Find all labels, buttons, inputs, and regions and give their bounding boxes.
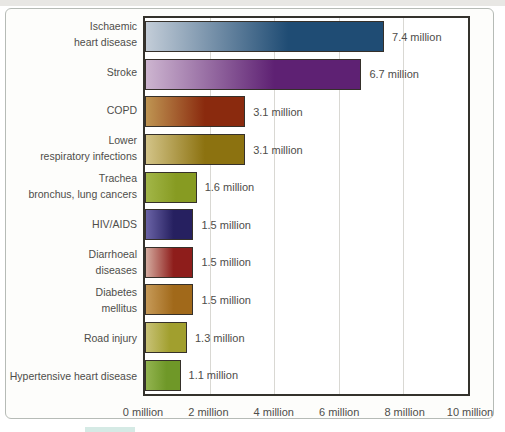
- category-label-row: Lower respiratory infections: [6, 130, 137, 168]
- category-label: Road injury: [84, 331, 137, 347]
- chart-row: 1.1 million: [145, 356, 468, 394]
- bar-rows: 7.4 million6.7 million3.1 million3.1 mil…: [145, 18, 468, 394]
- chart-row: 6.7 million: [145, 56, 468, 94]
- bar: [145, 59, 361, 90]
- category-label-row: COPD: [6, 92, 137, 130]
- value-label: 1.5 million: [201, 294, 251, 306]
- value-label: 3.1 million: [253, 144, 303, 156]
- value-label: 7.4 million: [392, 31, 442, 43]
- screenshot-canvas: Ischaemic heart diseaseStrokeCOPDLower r…: [0, 0, 505, 432]
- chart-row: 1.3 million: [145, 319, 468, 357]
- bar: [145, 172, 197, 203]
- bar: [145, 96, 245, 127]
- value-label: 1.6 million: [205, 181, 255, 193]
- value-label: 1.5 million: [201, 256, 251, 268]
- plot-area: 7.4 million6.7 million3.1 million3.1 mil…: [143, 16, 470, 396]
- x-tick-label: 6 million: [319, 406, 359, 418]
- category-label-row: Diarrhoeal diseases: [6, 244, 137, 282]
- category-label: HIV/AIDS: [92, 217, 137, 233]
- category-label: Hypertensive heart disease: [10, 369, 137, 385]
- chart-row: 3.1 million: [145, 93, 468, 131]
- bar: [145, 247, 193, 278]
- category-label-row: Ischaemic heart disease: [6, 16, 137, 54]
- category-label: Diarrhoeal diseases: [89, 247, 137, 279]
- value-label: 3.1 million: [253, 106, 303, 118]
- chart-row: 3.1 million: [145, 131, 468, 169]
- category-label-row: Trachea bronchus, lung cancers: [6, 168, 137, 206]
- figure-panel: Ischaemic heart diseaseStrokeCOPDLower r…: [5, 8, 494, 419]
- bar: [145, 360, 181, 391]
- page-edge-strip: [0, 0, 505, 6]
- category-label: Ischaemic heart disease: [74, 19, 137, 51]
- cropped-page-element: [85, 427, 135, 432]
- bar: [145, 209, 193, 240]
- category-label: Diabetes mellitus: [96, 285, 137, 317]
- category-label: Trachea bronchus, lung cancers: [28, 171, 137, 203]
- x-tick-label: 10 million: [447, 406, 493, 418]
- bar: [145, 134, 245, 165]
- value-label: 6.7 million: [369, 68, 419, 80]
- value-label: 1.5 million: [201, 219, 251, 231]
- chart-row: 7.4 million: [145, 18, 468, 56]
- category-label-row: Hypertensive heart disease: [6, 358, 137, 396]
- category-label-row: Stroke: [6, 54, 137, 92]
- x-tick-label: 8 million: [384, 406, 424, 418]
- x-axis: 0 million 2 million 4 million 6 million …: [143, 403, 470, 418]
- chart-row: 1.6 million: [145, 168, 468, 206]
- bar: [145, 322, 187, 353]
- category-labels-column: Ischaemic heart diseaseStrokeCOPDLower r…: [6, 16, 137, 396]
- bar: [145, 284, 193, 315]
- category-label-row: HIV/AIDS: [6, 206, 137, 244]
- chart-row: 1.5 million: [145, 244, 468, 282]
- bar: [145, 21, 384, 52]
- x-tick-label: 2 million: [188, 406, 228, 418]
- category-label: Lower respiratory infections: [40, 133, 137, 165]
- value-label: 1.3 million: [195, 332, 245, 344]
- chart-row: 1.5 million: [145, 281, 468, 319]
- x-tick-label: 4 million: [254, 406, 294, 418]
- category-label: Stroke: [107, 65, 137, 81]
- category-label-row: Diabetes mellitus: [6, 282, 137, 320]
- x-tick-label: 0 million: [123, 406, 163, 418]
- chart-row: 1.5 million: [145, 206, 468, 244]
- category-label-row: Road injury: [6, 320, 137, 358]
- category-label: COPD: [107, 103, 137, 119]
- value-label: 1.1 million: [189, 369, 239, 381]
